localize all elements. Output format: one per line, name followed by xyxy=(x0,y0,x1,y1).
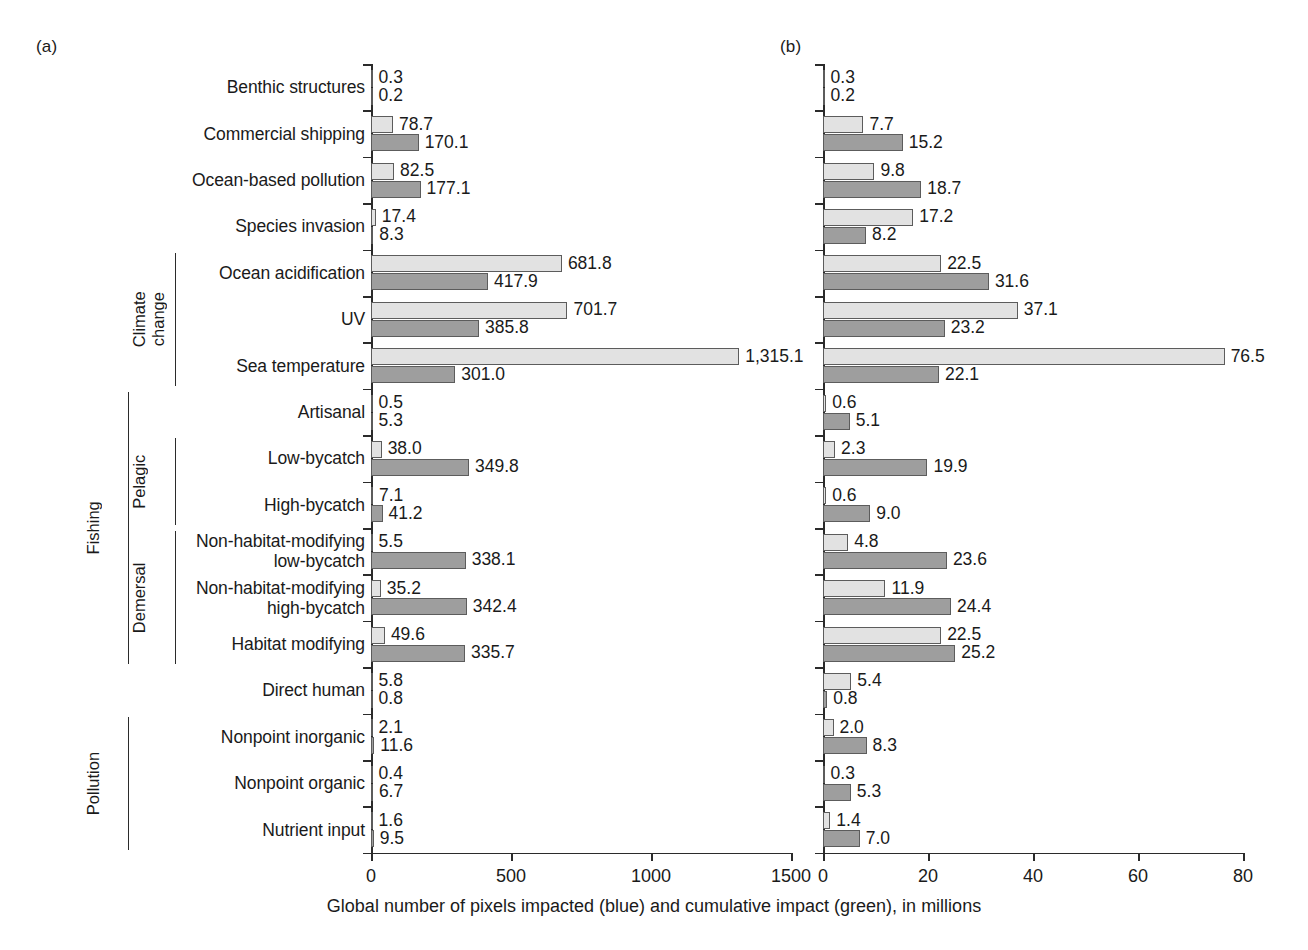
bar xyxy=(371,181,421,198)
bar-value-label: 11.6 xyxy=(380,737,413,754)
y-axis-tick xyxy=(815,389,823,391)
bar xyxy=(823,645,955,662)
y-axis-tick xyxy=(815,760,823,762)
bar xyxy=(823,766,825,783)
category-label: Direct human xyxy=(262,680,365,700)
bar xyxy=(371,673,373,690)
bar xyxy=(823,691,827,708)
bar xyxy=(371,348,739,365)
x-axis-tick xyxy=(1138,853,1140,861)
bar-value-label: 1.6 xyxy=(379,812,403,829)
bar xyxy=(823,134,903,151)
category-label: Nonpoint organic xyxy=(234,773,365,793)
y-axis-tick xyxy=(815,621,823,623)
bar-value-label: 2.0 xyxy=(840,719,864,736)
bar-value-label: 0.3 xyxy=(831,765,855,782)
group-bracket xyxy=(175,438,176,525)
group-bracket xyxy=(175,253,176,386)
bar-value-label: 0.6 xyxy=(832,394,856,411)
bar xyxy=(371,320,479,337)
x-axis-tick-label: 1000 xyxy=(631,866,671,887)
y-axis-tick xyxy=(815,64,823,66)
bar-value-label: 19.9 xyxy=(933,458,967,475)
bar-value-label: 0.5 xyxy=(379,394,403,411)
x-axis-tick xyxy=(823,853,825,861)
bar-value-label: 23.2 xyxy=(951,319,985,336)
y-axis-tick xyxy=(363,482,371,484)
bar-value-label: 18.7 xyxy=(927,180,961,197)
bar-value-label: 335.7 xyxy=(471,644,515,661)
y-axis-tick xyxy=(363,250,371,252)
x-axis-line xyxy=(371,853,791,855)
bar-value-label: 177.1 xyxy=(427,180,471,197)
category-label: Sea temperature xyxy=(236,356,365,376)
bar-value-label: 76.5 xyxy=(1231,348,1265,365)
y-axis-tick xyxy=(363,389,371,391)
bar xyxy=(371,366,455,383)
y-axis-tick xyxy=(815,667,823,669)
y-axis-tick xyxy=(363,574,371,576)
bar xyxy=(823,163,874,180)
y-axis-tick xyxy=(363,667,371,669)
bar-value-label: 5.5 xyxy=(379,533,403,550)
group-bracket xyxy=(175,531,176,664)
x-axis-tick-label: 0 xyxy=(366,866,376,887)
bar-value-label: 7.0 xyxy=(866,830,890,847)
bar-value-label: 49.6 xyxy=(391,626,425,643)
bar xyxy=(823,673,851,690)
bar-value-label: 35.2 xyxy=(387,580,421,597)
category-label: Non-habitat-modifying low-bycatch xyxy=(196,531,365,571)
bar-value-label: 0.3 xyxy=(831,69,855,86)
group-bracket xyxy=(128,717,129,850)
bar xyxy=(371,830,374,847)
bar xyxy=(371,116,393,133)
bar-value-label: 25.2 xyxy=(961,644,995,661)
bar-value-label: 2.3 xyxy=(841,440,865,457)
category-label: Artisanal xyxy=(298,402,365,422)
y-axis-tick xyxy=(815,250,823,252)
bar-value-label: 11.9 xyxy=(891,580,924,597)
bar-value-label: 170.1 xyxy=(425,134,469,151)
bar xyxy=(823,116,863,133)
bar xyxy=(371,459,469,476)
bar xyxy=(823,366,939,383)
y-axis-tick xyxy=(815,574,823,576)
bar-value-label: 338.1 xyxy=(472,551,516,568)
category-label: Nonpoint inorganic xyxy=(221,727,365,747)
bar-value-label: 0.2 xyxy=(379,87,403,104)
bar xyxy=(823,413,850,430)
bar xyxy=(823,302,1018,319)
bar xyxy=(371,273,488,290)
x-axis-tick xyxy=(1243,853,1245,861)
y-axis-tick xyxy=(815,435,823,437)
bar-value-label: 681.8 xyxy=(568,255,612,272)
bar xyxy=(371,441,382,458)
group-bracket-label: Climate change xyxy=(130,253,170,386)
category-label: Species invasion xyxy=(235,216,365,236)
x-axis-tick xyxy=(651,853,653,861)
bar xyxy=(371,209,376,226)
category-label: High-bycatch xyxy=(264,495,365,515)
x-axis-tick xyxy=(1033,853,1035,861)
bar xyxy=(823,459,927,476)
bar-value-label: 5.3 xyxy=(379,412,403,429)
bar xyxy=(371,413,373,430)
figure-root: (a) (b) Benthic structuresCommercial shi… xyxy=(0,0,1308,950)
bar-value-label: 8.3 xyxy=(873,737,897,754)
bar-value-label: 0.4 xyxy=(379,765,403,782)
bar xyxy=(823,88,825,105)
x-axis-tick-label: 500 xyxy=(496,866,526,887)
group-bracket xyxy=(128,392,129,664)
bar xyxy=(823,227,866,244)
x-axis-tick xyxy=(511,853,513,861)
bar xyxy=(371,766,373,783)
y-axis-tick xyxy=(815,342,823,344)
bar-value-label: 0.6 xyxy=(832,487,856,504)
y-axis-tick xyxy=(815,203,823,205)
category-label: Benthic structures xyxy=(227,77,365,97)
y-axis-tick xyxy=(815,482,823,484)
y-axis-tick xyxy=(363,760,371,762)
y-axis-tick xyxy=(363,296,371,298)
bar xyxy=(371,737,374,754)
bar-value-label: 349.8 xyxy=(475,458,519,475)
